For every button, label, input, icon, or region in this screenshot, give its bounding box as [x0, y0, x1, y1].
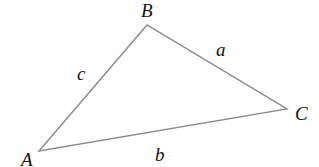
vertex-label-b: B	[141, 0, 153, 21]
triangle-abc	[39, 25, 287, 151]
side-label-b: b	[155, 144, 165, 165]
vertex-label-a: A	[19, 149, 33, 167]
side-label-a: a	[216, 39, 226, 60]
triangle-diagram: B C A a c b	[0, 0, 319, 167]
vertex-label-c: C	[295, 103, 308, 124]
side-label-c: c	[77, 63, 86, 84]
